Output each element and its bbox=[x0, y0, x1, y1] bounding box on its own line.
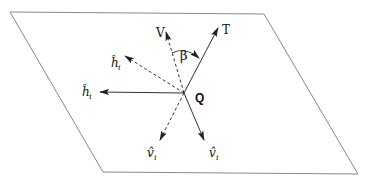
label-v-prime: v̂ i bbox=[147, 146, 157, 162]
svg-text:v̂: v̂ bbox=[209, 146, 216, 160]
svg-text:i: i bbox=[118, 63, 121, 72]
vector-diagram: V T β Q ĥ i ĥ i v̂ i v̂ i bbox=[0, 0, 366, 181]
vector-v-prime bbox=[160, 93, 184, 140]
vector-t bbox=[184, 28, 218, 93]
svg-text:i: i bbox=[216, 153, 219, 162]
vector-h bbox=[100, 92, 184, 93]
vector-h-prime bbox=[125, 56, 184, 93]
svg-text:i: i bbox=[89, 92, 92, 101]
label-h: ĥ i bbox=[82, 84, 92, 101]
label-t: T bbox=[222, 23, 230, 37]
svg-text:v̂: v̂ bbox=[147, 146, 154, 160]
label-q: Q bbox=[195, 91, 204, 105]
label-h-prime: ĥ i bbox=[111, 55, 121, 72]
svg-text:i: i bbox=[154, 153, 157, 162]
label-v: V bbox=[155, 26, 165, 40]
label-beta: β bbox=[180, 48, 188, 63]
label-v-hat: v̂ i bbox=[209, 146, 219, 162]
